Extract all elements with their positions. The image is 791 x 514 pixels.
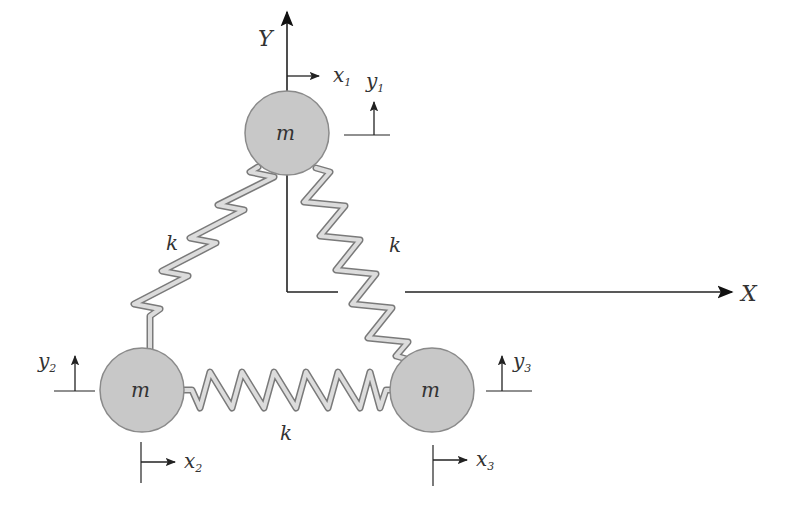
x1-label: x1 <box>333 63 351 89</box>
y2-label: y2 <box>37 349 56 375</box>
y-axis-label: Y <box>258 26 275 51</box>
mass-3: m <box>390 348 474 432</box>
spring-2-3-label: k <box>280 421 292 445</box>
x2-displacement-indicator <box>141 442 175 483</box>
spring-2-3 <box>184 372 390 408</box>
spring-1-2 <box>134 167 274 350</box>
x-axis-label: X <box>739 281 758 306</box>
x3-displacement-indicator <box>433 445 467 486</box>
spring-1-2-label: k <box>166 231 178 255</box>
y2-displacement-indicator <box>54 356 95 391</box>
spring-1-3 <box>304 168 410 360</box>
x2-label: x2 <box>184 449 202 475</box>
mass-2-label: m <box>131 378 150 402</box>
mass-3-label: m <box>421 378 440 402</box>
mass-1-label: m <box>276 121 295 145</box>
y1-displacement-indicator <box>344 102 390 135</box>
spring-1-3-label: k <box>389 233 401 257</box>
x3-label: x3 <box>476 447 494 473</box>
spring-mass-diagram: Y X m x1 y1 m y2 x2 m y3 x3 <box>0 0 791 514</box>
mass-1: m <box>245 91 329 175</box>
y3-label: y3 <box>512 349 531 375</box>
mass-2: m <box>100 348 184 432</box>
y1-label: y1 <box>365 69 384 95</box>
